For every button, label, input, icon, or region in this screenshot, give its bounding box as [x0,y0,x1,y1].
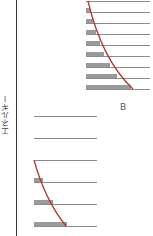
panel-b-label: B [120,102,126,112]
occupancy-bar [86,19,93,23]
energy-panel-b [86,1,150,90]
occupancy-bar [86,30,96,34]
energy-level-diagram: エネルギー B [0,0,153,236]
occupancy-bar [86,63,110,67]
occupancy-bar [86,85,131,89]
occupancy-bar [86,52,104,56]
energy-panel-a [34,117,97,227]
energy-diagram-canvas [0,0,153,236]
occupancy-bar [86,41,100,45]
distribution-curve [34,160,66,226]
occupancy-bar [34,222,67,226]
occupancy-bar [86,74,117,78]
energy-axis-label: エネルギー [0,93,14,137]
